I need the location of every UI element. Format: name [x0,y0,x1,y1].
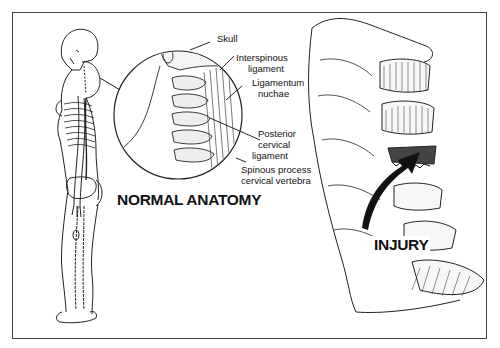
label-spinous-1: Spinous process [241,165,311,176]
injury-title: INJURY [372,236,430,254]
injured-spine-illustration [309,19,485,313]
label-skull: Skull [217,34,238,45]
label-nuchae-2: nuchae [258,89,289,100]
label-interspinous-2: ligament [248,64,284,75]
label-posterior-1: Posterior [258,129,296,140]
normal-anatomy-title: NORMAL ANATOMY [117,191,261,209]
label-posterior-3: ligament [252,151,288,162]
label-spinous-2: cervical vertebra [241,176,311,187]
skeleton-figure [56,29,102,323]
label-nuchae-1: Ligamentum [252,78,304,89]
label-interspinous-1: Interspinous [236,53,288,64]
label-posterior-2: cervical [258,140,290,151]
